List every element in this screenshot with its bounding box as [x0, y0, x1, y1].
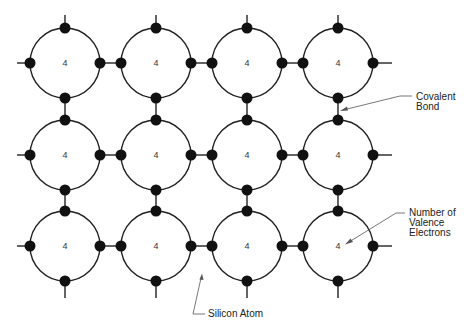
callout-valence-electrons: Number of Valence Electrons	[345, 207, 456, 245]
silicon-atom: 4	[116, 206, 197, 287]
electron-dot-icon	[368, 58, 379, 69]
electron-dot-icon	[25, 241, 36, 252]
electron-dot-icon	[333, 276, 344, 287]
electron-dot-icon	[25, 150, 36, 161]
electron-dot-icon	[298, 58, 309, 69]
electron-dot-icon	[333, 93, 344, 104]
electron-dot-icon	[368, 241, 379, 252]
valence-count: 4	[153, 150, 158, 160]
valence-count: 4	[153, 241, 158, 251]
callout-covalent-bond: Covalent Bond	[340, 91, 456, 112]
valence-count: 4	[153, 58, 158, 68]
electron-dot-icon	[242, 185, 253, 196]
electron-dot-icon	[60, 23, 71, 34]
silicon-atom-label: Silicon Atom	[208, 308, 263, 319]
electron-dot-icon	[116, 150, 127, 161]
electron-dot-icon	[60, 206, 71, 217]
electron-dot-icon	[242, 206, 253, 217]
electron-dot-icon	[207, 58, 218, 69]
electron-dot-icon	[116, 58, 127, 69]
silicon-atom: 4	[116, 23, 197, 104]
electron-dot-icon	[60, 185, 71, 196]
silicon-atom: 4	[116, 115, 197, 196]
covalent-bond-arrow-line	[343, 96, 412, 110]
valence-count: 4	[244, 241, 249, 251]
electron-dot-icon	[277, 150, 288, 161]
electron-dot-icon	[242, 276, 253, 287]
arrowhead-icon	[340, 107, 348, 112]
electron-dot-icon	[151, 276, 162, 287]
arrowhead-icon	[345, 239, 353, 245]
electron-dot-icon	[333, 115, 344, 126]
electron-dot-icon	[186, 150, 197, 161]
silicon-lattice-diagram: 444444444444 Covalent Bond Number of Val…	[0, 0, 469, 330]
valence-count: 4	[62, 241, 67, 251]
electron-dot-icon	[186, 58, 197, 69]
electron-dot-icon	[151, 93, 162, 104]
electron-dot-icon	[25, 58, 36, 69]
arrowhead-icon	[200, 274, 204, 281]
electron-dot-icon	[60, 276, 71, 287]
electron-dot-icon	[368, 150, 379, 161]
electron-dot-icon	[60, 115, 71, 126]
silicon-atom-arrow-line	[193, 278, 205, 314]
electron-dot-icon	[95, 150, 106, 161]
electron-dot-icon	[298, 150, 309, 161]
electron-dot-icon	[242, 93, 253, 104]
silicon-atom: 4	[25, 115, 106, 196]
valence-count: 4	[62, 58, 67, 68]
silicon-atom: 4	[298, 206, 379, 287]
silicon-atom: 4	[25, 23, 106, 104]
electron-dot-icon	[242, 23, 253, 34]
electron-dot-icon	[95, 241, 106, 252]
valence-count: 4	[62, 150, 67, 160]
electron-dot-icon	[95, 58, 106, 69]
electron-dot-icon	[242, 115, 253, 126]
valence-count: 4	[335, 241, 340, 251]
silicon-atom: 4	[207, 206, 288, 287]
electron-dot-icon	[207, 150, 218, 161]
silicon-atom: 4	[207, 23, 288, 104]
electron-dot-icon	[186, 241, 197, 252]
electron-dot-icon	[151, 23, 162, 34]
electron-dot-icon	[151, 185, 162, 196]
valence-count: 4	[335, 150, 340, 160]
electron-dot-icon	[277, 241, 288, 252]
electron-dot-icon	[277, 58, 288, 69]
covalent-bond-label-line2: Bond	[416, 101, 439, 112]
electron-dot-icon	[151, 206, 162, 217]
valence-label-line3: Electrons	[409, 227, 451, 238]
valence-count: 4	[244, 150, 249, 160]
electron-dot-icon	[333, 206, 344, 217]
electron-dot-icon	[333, 23, 344, 34]
valence-count: 4	[244, 58, 249, 68]
silicon-atom: 4	[207, 115, 288, 196]
electron-dot-icon	[298, 241, 309, 252]
electron-dot-icon	[116, 241, 127, 252]
electron-dot-icon	[207, 241, 218, 252]
valence-count: 4	[335, 58, 340, 68]
electron-dot-icon	[60, 93, 71, 104]
silicon-atom: 4	[25, 206, 106, 287]
electron-dot-icon	[151, 115, 162, 126]
electron-dot-icon	[333, 185, 344, 196]
silicon-atom: 4	[298, 23, 379, 104]
silicon-atom: 4	[298, 115, 379, 196]
